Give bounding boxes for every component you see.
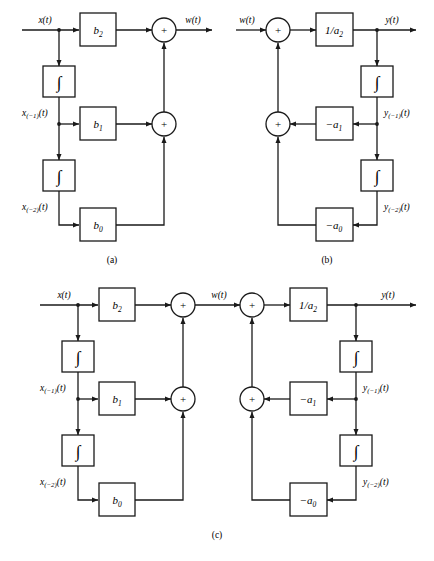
caption-a: (a) xyxy=(107,255,118,266)
summer-top-sign: + xyxy=(275,24,281,36)
label-y: y(t) xyxy=(380,290,394,301)
summer-top-sign: + xyxy=(161,24,167,36)
label-w: w(t) xyxy=(211,290,226,301)
label-x: x(t) xyxy=(56,290,70,301)
label-w-in: w(t) xyxy=(239,15,254,26)
summer-ff-top-sign: + xyxy=(180,299,186,311)
junction-dot-y1 xyxy=(354,397,358,401)
junction-dot-x xyxy=(57,28,61,32)
label-x: x(t) xyxy=(37,15,51,26)
label-w: w(t) xyxy=(185,15,200,26)
block-diagram-figure: b2 b1 b0 ∫ ∫ + + x(t) w(t) x(−1)(t) x(−2… xyxy=(0,0,434,561)
summer-fb-top-sign: + xyxy=(249,299,255,311)
junction-dot-y xyxy=(375,28,379,32)
junction-dot-y1 xyxy=(375,122,379,126)
junction-dot-x xyxy=(76,303,80,307)
caption-c: (c) xyxy=(212,530,223,541)
label-y: y(t) xyxy=(384,15,398,26)
figure-canvas: b2 b1 b0 ∫ ∫ + + x(t) w(t) x(−1)(t) x(−2… xyxy=(0,0,434,561)
junction-dot-x1 xyxy=(57,122,61,126)
summer-fb-mid-sign: + xyxy=(249,393,255,405)
junction-dot-x1 xyxy=(76,397,80,401)
summer-ff-mid-sign: + xyxy=(180,393,186,405)
summer-mid-sign: + xyxy=(275,118,281,130)
junction-dot-y xyxy=(354,303,358,307)
summer-mid-sign: + xyxy=(161,118,167,130)
caption-b: (b) xyxy=(321,255,332,266)
